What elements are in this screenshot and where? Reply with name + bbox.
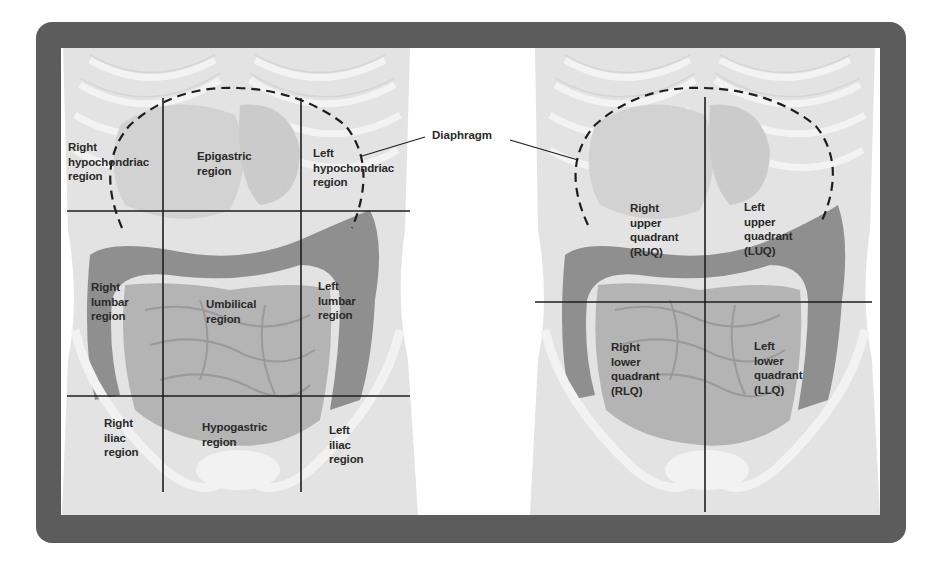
label-right-lumbar: Right lumbar region: [91, 280, 129, 324]
label-umbilical: Umbilical region: [206, 297, 256, 326]
label-luq: Left upper quadrant (LUQ): [744, 200, 792, 258]
label-llq: Left lower quadrant (LLQ): [754, 339, 802, 397]
diaphragm-callout: Diaphragm: [432, 129, 492, 141]
label-right-hypochondriac: Right hypochondriac region: [68, 140, 149, 184]
label-rlq: Right lower quadrant (RLQ): [611, 340, 659, 398]
label-right-iliac: Right iliac region: [104, 416, 139, 460]
label-left-lumbar: Left lumbar region: [318, 279, 356, 323]
label-ruq: Right upper quadrant (RUQ): [630, 201, 678, 259]
anatomy-illustration: [0, 0, 935, 562]
label-left-hypochondriac: Left hypochondriac region: [313, 146, 394, 190]
label-hypogastric: Hypogastric region: [202, 420, 267, 449]
label-epigastric: Epigastric region: [197, 149, 252, 178]
label-left-iliac: Left iliac region: [329, 423, 364, 467]
